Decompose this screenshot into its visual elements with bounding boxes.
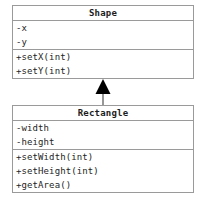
method-row: +setWidth(int) bbox=[13, 150, 193, 164]
class-name-shape: Shape bbox=[13, 6, 193, 21]
attribute-row: -height bbox=[13, 135, 193, 149]
attribute-row: -x bbox=[13, 21, 193, 35]
uml-class-diagram: Shape -x -y +setX(int) +setY(int) Rectan… bbox=[0, 0, 206, 199]
attribute-row: -width bbox=[13, 121, 193, 135]
attributes-compartment-rectangle: -width -height bbox=[13, 121, 193, 150]
class-box-shape[interactable]: Shape -x -y +setX(int) +setY(int) bbox=[12, 5, 194, 79]
method-row: +setY(int) bbox=[13, 64, 193, 78]
method-row: +setX(int) bbox=[13, 50, 193, 64]
attributes-compartment-shape: -x -y bbox=[13, 21, 193, 50]
class-name-rectangle: Rectangle bbox=[13, 106, 193, 121]
class-box-rectangle[interactable]: Rectangle -width -height +setWidth(int) … bbox=[12, 105, 194, 193]
hollow-triangle-arrowhead-icon bbox=[96, 79, 111, 94]
method-row: +getArea() bbox=[13, 178, 193, 192]
method-row: +setHeight(int) bbox=[13, 164, 193, 178]
attribute-row: -y bbox=[13, 35, 193, 49]
methods-compartment-rectangle: +setWidth(int) +setHeight(int) +getArea(… bbox=[13, 150, 193, 192]
methods-compartment-shape: +setX(int) +setY(int) bbox=[13, 50, 193, 78]
